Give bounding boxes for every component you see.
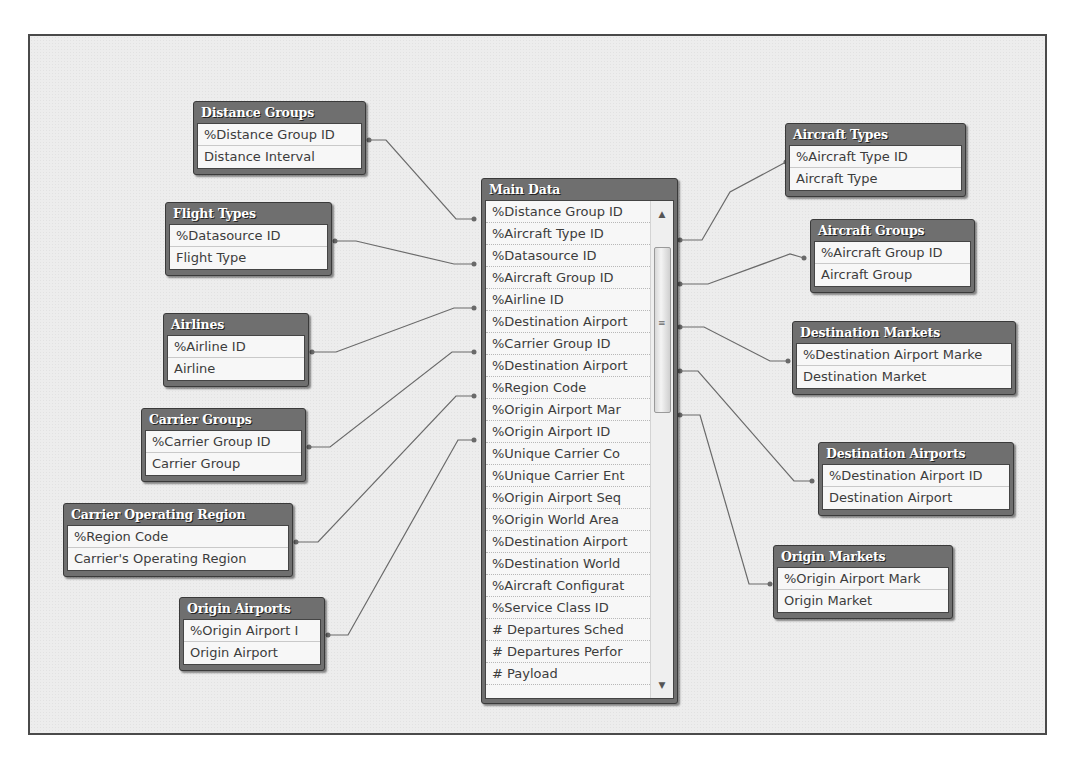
field-item[interactable]: # Departures Perfor xyxy=(486,641,650,663)
table-airlines[interactable]: Airlines %Airline ID Airline xyxy=(163,313,309,387)
field-item[interactable]: Carrier Group xyxy=(146,453,301,475)
field-item[interactable]: %Destination Airport xyxy=(486,311,650,333)
field-item[interactable]: %Service Class ID xyxy=(486,597,650,619)
field-item[interactable]: %Aircraft Type ID xyxy=(790,146,961,168)
field-item[interactable]: %Aircraft Group ID xyxy=(486,267,650,289)
field-item[interactable]: %Datasource ID xyxy=(170,225,327,247)
field-item[interactable]: %Airline ID xyxy=(486,289,650,311)
table-title[interactable]: Main Data xyxy=(485,179,674,200)
field-list: %Aircraft Group ID Aircraft Group xyxy=(814,241,971,287)
table-title[interactable]: Destination Airports xyxy=(822,443,1010,464)
field-item[interactable]: %Distance Group ID xyxy=(486,201,650,223)
table-distance-groups[interactable]: Distance Groups %Distance Group ID Dista… xyxy=(193,101,366,175)
field-list: %Destination Airport Marke Destination M… xyxy=(796,343,1012,389)
field-item[interactable]: # Departures Sched xyxy=(486,619,650,641)
field-item[interactable]: Aircraft Group xyxy=(815,264,970,286)
field-list: %Distance Group ID %Aircraft Type ID %Da… xyxy=(485,200,674,699)
field-list: %Destination Airport ID Destination Airp… xyxy=(822,464,1010,510)
field-item[interactable]: %Destination World xyxy=(486,553,650,575)
field-item[interactable]: %Carrier Group ID xyxy=(486,333,650,355)
table-destination-markets[interactable]: Destination Markets %Destination Airport… xyxy=(792,321,1016,395)
field-list: %Region Code Carrier's Operating Region xyxy=(67,525,289,571)
field-item[interactable]: %Destination Airport xyxy=(486,531,650,553)
scroll-up-icon[interactable]: ▲ xyxy=(651,205,673,223)
grip-icon: ≡ xyxy=(658,322,667,325)
field-item[interactable]: %Datasource ID xyxy=(486,245,650,267)
table-main-data[interactable]: Main Data %Distance Group ID %Aircraft T… xyxy=(481,178,678,704)
field-list: %Datasource ID Flight Type xyxy=(169,224,328,270)
field-item[interactable]: %Origin Airport Mark xyxy=(778,568,948,590)
field-item[interactable]: %Region Code xyxy=(486,377,650,399)
field-list: %Airline ID Airline xyxy=(167,335,305,381)
scroll-down-icon[interactable]: ▼ xyxy=(651,676,673,694)
field-list: %Distance Group ID Distance Interval xyxy=(197,123,362,169)
table-title[interactable]: Carrier Operating Region xyxy=(67,504,289,525)
table-aircraft-groups[interactable]: Aircraft Groups %Aircraft Group ID Aircr… xyxy=(810,219,975,293)
field-list: %Carrier Group ID Carrier Group xyxy=(145,430,302,476)
field-item[interactable]: %Unique Carrier Co xyxy=(486,443,650,465)
table-title[interactable]: Distance Groups xyxy=(197,102,362,123)
table-title[interactable]: Origin Airports xyxy=(183,598,321,619)
field-item[interactable]: %Unique Carrier Ent xyxy=(486,465,650,487)
field-item[interactable]: Flight Type xyxy=(170,247,327,269)
field-item[interactable]: %Region Code xyxy=(68,526,288,548)
field-item[interactable]: %Origin Airport ID xyxy=(486,421,650,443)
scrollbar-thumb[interactable]: ≡ xyxy=(654,247,671,413)
field-item[interactable]: %Aircraft Configurat xyxy=(486,575,650,597)
field-item[interactable]: Carrier's Operating Region xyxy=(68,548,288,570)
table-title[interactable]: Airlines xyxy=(167,314,305,335)
vertical-scrollbar[interactable]: ▲ ≡ ▼ xyxy=(650,201,673,698)
table-destination-airports[interactable]: Destination Airports %Destination Airpor… xyxy=(818,442,1014,516)
field-item[interactable]: %Origin Airport I xyxy=(184,620,320,642)
table-carrier-operating-region[interactable]: Carrier Operating Region %Region Code Ca… xyxy=(63,503,293,577)
table-title[interactable]: Origin Markets xyxy=(777,546,949,567)
table-flight-types[interactable]: Flight Types %Datasource ID Flight Type xyxy=(165,202,332,276)
field-item[interactable]: %Origin Airport Mar xyxy=(486,399,650,421)
field-item[interactable]: Distance Interval xyxy=(198,146,361,168)
field-item[interactable]: Origin Airport xyxy=(184,642,320,664)
field-item[interactable]: Aircraft Type xyxy=(790,168,961,190)
field-item[interactable]: Airline xyxy=(168,358,304,380)
table-origin-markets[interactable]: Origin Markets %Origin Airport Mark Orig… xyxy=(773,545,953,619)
field-item[interactable]: %Aircraft Type ID xyxy=(486,223,650,245)
field-list: %Aircraft Type ID Aircraft Type xyxy=(789,145,962,191)
field-item[interactable]: Origin Market xyxy=(778,590,948,612)
table-title[interactable]: Flight Types xyxy=(169,203,328,224)
field-item[interactable]: %Origin Airport Seq xyxy=(486,487,650,509)
field-item[interactable]: %Destination Airport Marke xyxy=(797,344,1011,366)
field-item[interactable]: %Destination Airport ID xyxy=(823,465,1009,487)
field-item[interactable]: %Airline ID xyxy=(168,336,304,358)
table-title[interactable]: Aircraft Groups xyxy=(814,220,971,241)
table-title[interactable]: Aircraft Types xyxy=(789,124,962,145)
table-aircraft-types[interactable]: Aircraft Types %Aircraft Type ID Aircraf… xyxy=(785,123,966,197)
field-item[interactable]: %Destination Airport xyxy=(486,355,650,377)
field-list: %Origin Airport I Origin Airport xyxy=(183,619,321,665)
field-item[interactable]: Destination Market xyxy=(797,366,1011,388)
field-item[interactable]: # Payload xyxy=(486,663,650,685)
table-title[interactable]: Destination Markets xyxy=(796,322,1012,343)
field-item[interactable]: %Distance Group ID xyxy=(198,124,361,146)
field-item[interactable]: %Carrier Group ID xyxy=(146,431,301,453)
field-list: %Origin Airport Mark Origin Market xyxy=(777,567,949,613)
table-origin-airports[interactable]: Origin Airports %Origin Airport I Origin… xyxy=(179,597,325,671)
table-title[interactable]: Carrier Groups xyxy=(145,409,302,430)
field-item[interactable]: Destination Airport xyxy=(823,487,1009,509)
table-carrier-groups[interactable]: Carrier Groups %Carrier Group ID Carrier… xyxy=(141,408,306,482)
field-item[interactable]: %Aircraft Group ID xyxy=(815,242,970,264)
field-item[interactable]: %Origin World Area xyxy=(486,509,650,531)
